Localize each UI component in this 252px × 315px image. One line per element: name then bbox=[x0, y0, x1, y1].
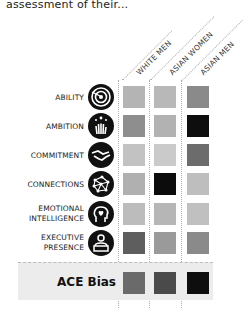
cell-ability-white-men bbox=[123, 86, 145, 108]
cell-ambition-asian-men bbox=[187, 115, 209, 137]
cell-executive-presence-white-men bbox=[123, 232, 145, 254]
summary-divider bbox=[18, 262, 213, 263]
cell-commitment-asian-men bbox=[187, 144, 209, 166]
handshake-icon bbox=[88, 142, 114, 168]
cell-emotional-intelligence-asian-men bbox=[187, 203, 209, 225]
reaching-hand-stars-icon bbox=[88, 113, 114, 139]
cell-emotional-intelligence-asian-women bbox=[154, 203, 176, 225]
cell-ability-asian-men bbox=[187, 86, 209, 108]
network-icon bbox=[88, 171, 114, 197]
column-guide-line bbox=[122, 31, 172, 81]
head-heart-icon bbox=[88, 201, 114, 227]
row-label-line: INTELLIGENCE bbox=[29, 214, 84, 224]
row-label-executive-presence: EXECUTIVE PRESENCE bbox=[41, 233, 84, 252]
cell-executive-presence-asian-men bbox=[187, 232, 209, 254]
row-label-ambition: AMBITION bbox=[46, 122, 84, 132]
cell-ace-bias-asian-men bbox=[187, 272, 209, 294]
cell-executive-presence-asian-women bbox=[154, 232, 176, 254]
cell-connections-asian-men bbox=[187, 173, 209, 195]
intro-text: assessment of their... bbox=[6, 0, 128, 11]
row-label-line: PRESENCE bbox=[41, 243, 84, 253]
person-podium-icon bbox=[88, 230, 114, 256]
cell-commitment-white-men bbox=[123, 144, 145, 166]
cell-ambition-white-men bbox=[123, 115, 145, 137]
cell-ability-asian-women bbox=[154, 86, 176, 108]
row-label-emotional-intelligence: EMOTIONAL INTELLIGENCE bbox=[29, 204, 84, 223]
cell-ace-bias-asian-women bbox=[154, 272, 176, 294]
cell-ambition-asian-women bbox=[154, 115, 176, 137]
ace-bias-label: ACE Bias bbox=[40, 275, 116, 289]
cell-emotional-intelligence-white-men bbox=[123, 203, 145, 225]
row-label-ability: ABILITY bbox=[55, 93, 84, 103]
cell-connections-asian-women bbox=[154, 173, 176, 195]
row-label-line: EXECUTIVE bbox=[41, 233, 84, 243]
row-label-connections: CONNECTIONS bbox=[27, 180, 84, 190]
target-icon bbox=[88, 84, 114, 110]
cell-connections-white-men bbox=[123, 173, 145, 195]
row-label-line: EMOTIONAL bbox=[29, 204, 84, 214]
cell-ace-bias-white-men bbox=[123, 272, 145, 294]
cell-commitment-asian-women bbox=[154, 144, 176, 166]
row-label-commitment: COMMITMENT bbox=[31, 151, 84, 161]
